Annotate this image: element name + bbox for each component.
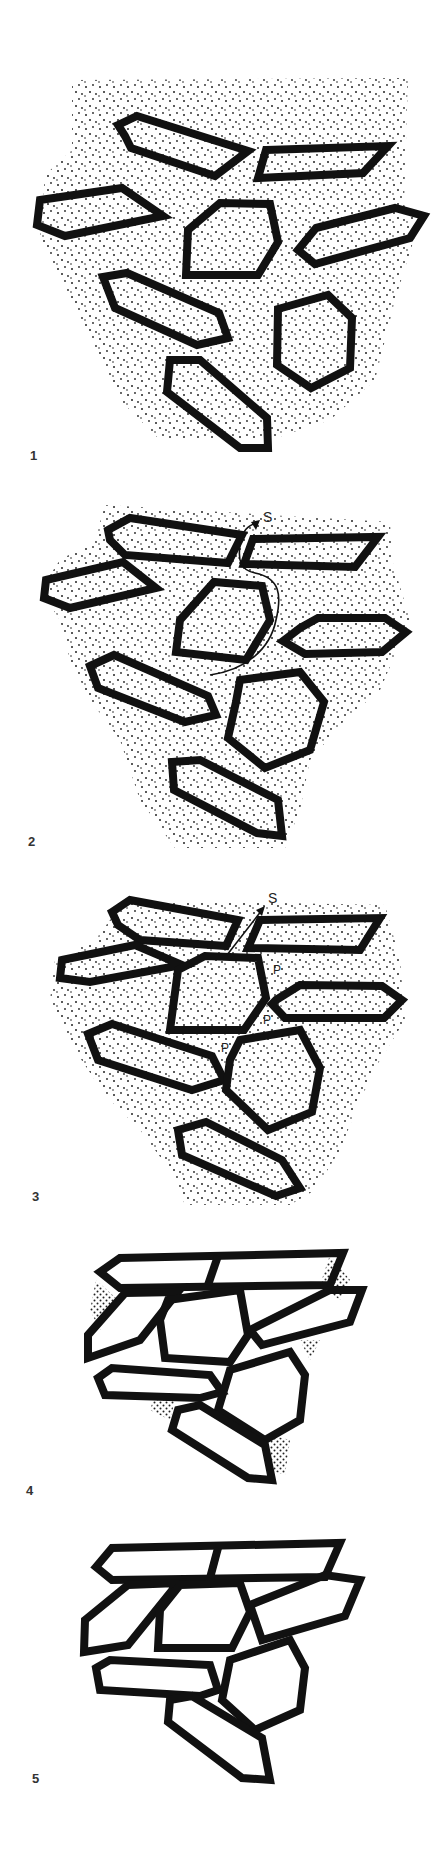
pore-label-p: P [221, 1041, 229, 1055]
panel-2: S [40, 505, 410, 848]
panel-1 [37, 78, 424, 448]
grain [250, 1575, 360, 1640]
grain [172, 1405, 272, 1480]
panel-3: S P P P [50, 890, 405, 1205]
panel-label-1: 1 [30, 448, 37, 463]
grain [222, 1640, 305, 1730]
grain [84, 1583, 178, 1652]
pore-label-p: P [263, 1013, 271, 1027]
panel-label-2: 2 [28, 834, 35, 849]
grain [250, 1290, 362, 1345]
escape-path-label-s: S [263, 509, 272, 525]
panel-4 [88, 1253, 362, 1480]
panel-label-3: 3 [32, 1189, 39, 1204]
pore-label-p: P [273, 963, 281, 977]
panel-label-5: 5 [32, 1771, 39, 1786]
grain [98, 1368, 222, 1398]
grain [158, 1583, 250, 1648]
grain [96, 1660, 218, 1696]
escape-path-label-s: S [268, 890, 277, 906]
panel-5 [84, 1543, 360, 1780]
grain [160, 1290, 248, 1362]
grain-boundary [210, 1548, 218, 1578]
grain-boundary [208, 1256, 218, 1285]
panel-label-4: 4 [26, 1483, 33, 1498]
grain [168, 1696, 270, 1780]
grain [100, 1253, 343, 1288]
compaction-diagram: S S P P P [0, 0, 437, 1857]
